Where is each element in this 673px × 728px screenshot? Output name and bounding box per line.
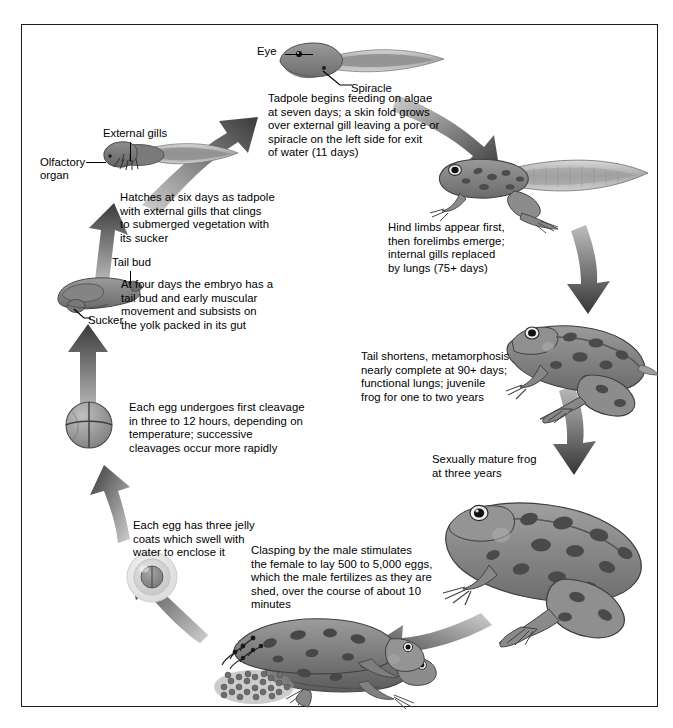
label-external-gills: External gills: [103, 127, 167, 140]
label-sucker: Sucker: [88, 314, 123, 327]
text-embryo-tailbud: At four days the embryo has a tail bud a…: [121, 278, 341, 332]
limbed-tadpole-illustration: [422, 151, 657, 231]
egg-mass-detail: [214, 670, 294, 704]
arrow-egg-to-cleavage: [90, 465, 130, 543]
leader-eye: [285, 54, 313, 55]
label-eye: Eye: [257, 45, 276, 58]
leader-sucker: [72, 307, 92, 321]
stage-limbed-tadpole: [422, 151, 657, 231]
leader-olfactory-organ: [86, 162, 106, 163]
text-tadpole-feeding: Tadpole begins feeding on algae at seven…: [268, 92, 508, 160]
amplexus-illustration: [208, 603, 448, 708]
stage-cleavage: [60, 396, 120, 456]
adult-frog-illustration: [417, 493, 657, 653]
text-limbed-tadpole: Hind limbs appear first, then forelimbs …: [388, 221, 588, 275]
label-olfactory-organ: Olfactory organ: [40, 156, 85, 183]
stage-tadpole-feeding: Eye Spiracle: [258, 35, 458, 95]
label-tail-bud: Tail bud: [112, 256, 151, 269]
leader-spiracle: [318, 69, 354, 89]
diagram-frame: Eye Spiracle Tadpole begins feeding on a…: [21, 24, 658, 707]
text-juvenile-frog: Tail shortens, metamorphosis nearly comp…: [361, 350, 581, 404]
text-hatchling: Hatches at six days as tadpole with exte…: [120, 191, 350, 245]
cleavage-egg-illustration: [60, 396, 120, 456]
text-adult-frog: Sexually mature frog at three years: [432, 453, 622, 480]
stage-amplexus: [208, 603, 448, 708]
text-cleavage: Each egg undergoes first cleavage in thr…: [129, 401, 369, 455]
leader-external-gills: [130, 142, 131, 161]
stage-adult-frog: [417, 493, 657, 653]
